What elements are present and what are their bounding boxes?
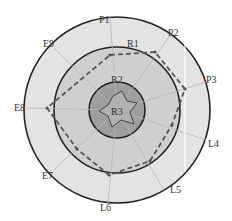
axis-label-p1: P1 — [99, 14, 110, 25]
radar-ring-diagram: P1 P2 P3 L4 L5 L6 E7 E8 E9 R1 R2 R3 — [0, 0, 232, 221]
axis-label-l6: L6 — [100, 202, 111, 213]
axis-label-l5: L5 — [170, 184, 181, 195]
axis-label-p2: P2 — [168, 27, 179, 38]
axis-label-e8: E8 — [14, 102, 25, 113]
axis-label-e9: E9 — [43, 38, 54, 49]
ring-label-r2: R2 — [111, 74, 123, 85]
axis-label-e7: E7 — [42, 170, 53, 181]
axis-label-p3: P3 — [206, 74, 217, 85]
ring-label-r3: R3 — [111, 106, 123, 117]
axis-label-l4: L4 — [208, 138, 219, 149]
ring-label-r1: R1 — [127, 38, 139, 49]
